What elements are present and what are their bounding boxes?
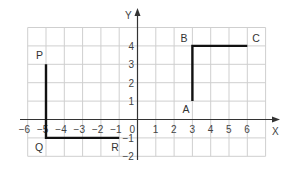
x-axis-label: X <box>272 126 279 137</box>
x-tick-label: 1 <box>153 124 159 135</box>
x-tick-label: −4 <box>55 124 67 135</box>
path-abc <box>192 46 247 101</box>
y-axis-arrow-icon <box>135 8 141 16</box>
point-label-r: R <box>111 141 119 153</box>
x-tick-label: 2 <box>171 124 177 135</box>
y-tick-label: −1 <box>123 133 135 144</box>
point-label-b: B <box>180 32 187 44</box>
y-tick-label: 2 <box>129 78 135 89</box>
coordinate-grid-diagram: X Y −6−5−4−3−2−101234564321−1−2 PQRABC <box>0 0 295 173</box>
point-label-a: A <box>182 103 189 115</box>
y-axis-label: Y <box>125 10 132 21</box>
x-tick-label: 3 <box>189 124 195 135</box>
x-tick-label: −1 <box>110 124 122 135</box>
x-tick-label: 4 <box>208 124 214 135</box>
point-label-p: P <box>36 49 43 61</box>
point-labels: PQRABC <box>35 32 260 153</box>
y-tick-label: −2 <box>123 151 135 162</box>
tick-labels: −6−5−4−3−2−101234564321−1−2 <box>19 41 251 162</box>
point-label-c: C <box>252 32 260 44</box>
y-tick-label: 1 <box>129 96 135 107</box>
x-tick-label: −6 <box>19 124 31 135</box>
x-tick-label: −2 <box>92 124 104 135</box>
y-tick-label: 3 <box>129 59 135 70</box>
y-tick-label: 4 <box>129 41 135 52</box>
x-tick-label: 5 <box>226 124 232 135</box>
x-axis-arrow-icon <box>272 117 280 123</box>
x-tick-label: 6 <box>244 124 250 135</box>
x-tick-label: −3 <box>74 124 86 135</box>
point-label-q: Q <box>35 141 43 153</box>
